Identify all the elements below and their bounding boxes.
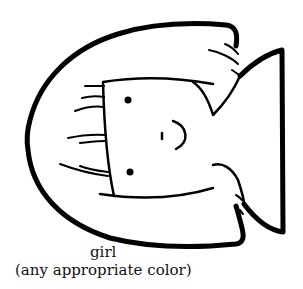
mouth [173,121,185,149]
eye-left [125,97,132,104]
face-outline [100,78,213,197]
caption-subtitle: (any appropriate color) [15,262,192,279]
caption-title: girl [90,244,116,261]
neck-outline [240,50,283,232]
hair-outline [27,24,243,247]
hair-strands-top [209,44,240,76]
bangs-strands [60,86,108,176]
eye-right [127,169,134,176]
girl-face-illustration [0,0,303,289]
